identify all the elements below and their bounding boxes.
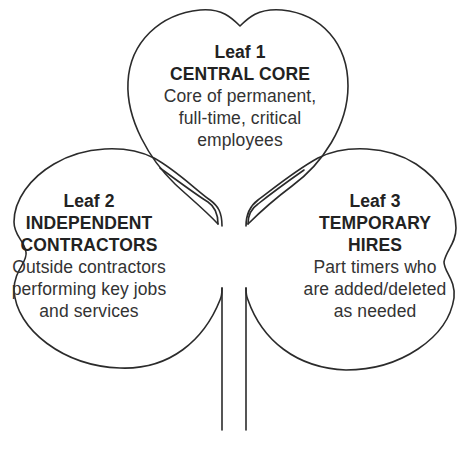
leaf-2-name-line-1: INDEPENDENT <box>0 212 178 234</box>
leaf-1-name: CENTRAL CORE <box>150 63 330 85</box>
leaf-2-desc-line-2: performing key jobs <box>0 278 178 300</box>
leaf-2-desc-line-1: Outside contractors <box>0 256 178 278</box>
leaf-1-label: Leaf 1 CENTRAL CORE Core of permanent, f… <box>150 41 330 151</box>
leaf-3-title: Leaf 3 <box>285 190 464 212</box>
leaf-3-name-line-2: HIRES <box>285 234 464 256</box>
leaf-2-desc-line-3: and services <box>0 300 178 322</box>
leaf-2-name-line-2: CONTRACTORS <box>0 234 178 256</box>
leaf-1-desc-line-2: full-time, critical <box>150 107 330 129</box>
leaf-3-name-line-1: TEMPORARY <box>285 212 464 234</box>
leaf-2-label: Leaf 2 INDEPENDENT CONTRACTORS Outside c… <box>0 190 178 322</box>
leaf-3-desc-line-2: are added/deleted <box>285 278 464 300</box>
leaf-3-desc-line-3: as needed <box>285 300 464 322</box>
leaf-3-desc-line-1: Part timers who <box>285 256 464 278</box>
leaf-3-label: Leaf 3 TEMPORARY HIRES Part timers who a… <box>285 190 464 322</box>
leaf-1-title: Leaf 1 <box>150 41 330 63</box>
leaf-1-desc-line-1: Core of permanent, <box>150 85 330 107</box>
leaf-1-desc-line-3: employees <box>150 129 330 151</box>
leaf-2-title: Leaf 2 <box>0 190 178 212</box>
